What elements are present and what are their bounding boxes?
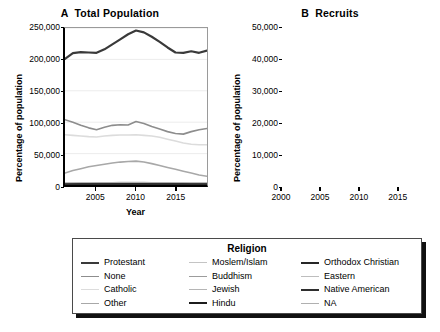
- y-tick-mark: [279, 59, 282, 60]
- legend-item[interactable]: None: [81, 270, 189, 284]
- legend-item[interactable]: Catholic: [81, 283, 189, 297]
- legend-line-swatch: [81, 289, 99, 290]
- chart-panel-a: A Total Population Percentage of populat…: [0, 0, 220, 228]
- legend-line-swatch: [189, 262, 207, 263]
- x-tick-mark: [175, 187, 176, 191]
- x-tick-label: 2015: [388, 192, 407, 202]
- legend-item-label: Protestant: [104, 258, 145, 267]
- y-tick-mark: [279, 27, 282, 28]
- y-tick-label: 50,000: [2, 150, 60, 160]
- x-tick-mark: [319, 187, 320, 191]
- x-tick-label: 2010: [126, 192, 145, 202]
- figure-container: A Total Population Percentage of populat…: [0, 0, 440, 332]
- y-tick-label: 10,000: [228, 150, 278, 160]
- legend-line-swatch: [301, 289, 319, 291]
- x-tick-mark: [95, 187, 96, 191]
- legend-line-swatch: [301, 276, 319, 277]
- y-tick-label: 50,000: [228, 22, 278, 32]
- y-tick-mark: [279, 155, 282, 156]
- x-tick-mark: [358, 187, 359, 191]
- legend-line-swatch: [81, 303, 99, 304]
- panel-a-plot-area: [63, 27, 208, 187]
- legend-line-swatch: [81, 276, 99, 277]
- y-tick-mark: [61, 123, 64, 124]
- panel-a-x-axis-label: Year: [63, 207, 208, 217]
- legend-item[interactable]: Hindu: [189, 297, 301, 311]
- legend-line-swatch: [81, 262, 99, 264]
- y-tick-label: 200,000: [2, 54, 60, 64]
- legend-title: Religion: [73, 243, 421, 254]
- legend-columns: ProtestantNoneCatholicOtherMoslem/IslamB…: [73, 256, 421, 310]
- x-tick-label: 2015: [166, 192, 185, 202]
- y-tick-mark: [61, 187, 64, 188]
- y-tick-label: 150,000: [2, 86, 60, 96]
- legend-item-label: Other: [104, 299, 127, 308]
- legend-item-label: Hindu: [212, 299, 236, 308]
- y-tick-mark: [61, 27, 64, 28]
- legend-line-swatch: [189, 302, 207, 304]
- x-tick-label: 2000: [272, 192, 291, 202]
- legend-box: Religion ProtestantNoneCatholicOtherMosl…: [72, 238, 422, 314]
- y-tick-label: 30,000: [228, 86, 278, 96]
- legend-item-label: Eastern: [324, 272, 355, 281]
- legend-item-label: Buddhism: [212, 272, 252, 281]
- legend-item-label: Moslem/Islam: [212, 258, 268, 267]
- legend-item[interactable]: Orthodox Christian: [301, 256, 399, 270]
- x-tick-label: 2005: [310, 192, 329, 202]
- y-tick-mark: [61, 91, 64, 92]
- chart-panel-b: B Recruits Percentage of population 010,…: [220, 0, 440, 228]
- legend-line-swatch: [301, 303, 319, 304]
- legend-item[interactable]: Protestant: [81, 256, 189, 270]
- legend-item-label: Native American: [324, 285, 390, 294]
- legend-item-label: NA: [324, 299, 337, 308]
- y-tick-label: 250,000: [2, 22, 60, 32]
- panel-a-title: A Total Population: [0, 7, 220, 19]
- y-tick-label: 20,000: [228, 118, 278, 128]
- y-tick-mark: [61, 59, 64, 60]
- legend-item[interactable]: Eastern: [301, 270, 399, 284]
- y-tick-mark: [279, 91, 282, 92]
- y-tick-label: 0: [228, 182, 278, 192]
- legend-item[interactable]: Native American: [301, 283, 399, 297]
- y-tick-label: 100,000: [2, 118, 60, 128]
- legend-line-swatch: [301, 262, 319, 264]
- y-tick-label: 40,000: [228, 54, 278, 64]
- legend-item-label: Orthodox Christian: [324, 258, 399, 267]
- y-tick-label: 0: [2, 182, 60, 192]
- y-tick-mark: [61, 155, 64, 156]
- legend-line-swatch: [189, 276, 207, 277]
- legend-column: Orthodox ChristianEasternNative American…: [301, 256, 399, 310]
- legend-item-label: Catholic: [104, 285, 137, 294]
- x-tick-label: 2010: [349, 192, 368, 202]
- x-tick-mark: [397, 187, 398, 191]
- x-tick-mark: [135, 187, 136, 191]
- legend-item[interactable]: Moslem/Islam: [189, 256, 301, 270]
- legend-item-label: None: [104, 272, 126, 281]
- legend-column: Moslem/IslamBuddhismJewishHindu: [189, 256, 301, 310]
- panel-b-title: B Recruits: [220, 7, 440, 19]
- x-tick-label: 2005: [86, 192, 105, 202]
- legend-item[interactable]: Other: [81, 297, 189, 311]
- x-tick-mark: [280, 187, 281, 191]
- legend-line-swatch: [189, 289, 207, 290]
- legend-item-label: Jewish: [212, 285, 240, 294]
- legend-item[interactable]: NA: [301, 297, 399, 311]
- legend-item[interactable]: Jewish: [189, 283, 301, 297]
- legend-column: ProtestantNoneCatholicOther: [81, 256, 189, 310]
- legend-item[interactable]: Buddhism: [189, 270, 301, 284]
- y-tick-mark: [279, 123, 282, 124]
